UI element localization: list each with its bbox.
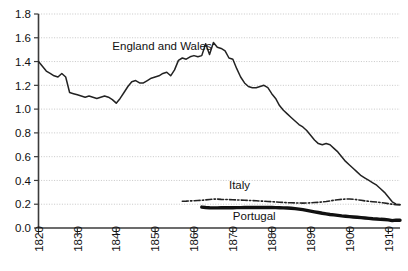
axes [39,14,401,228]
annotation-label-england-and-wales: England and Wales [112,40,212,52]
y-tick-label: 1.0 [15,103,31,115]
annotation-label-italy: Italy [229,179,250,191]
line-chart: 0.00.20.40.60.81.01.21.41.61.8 182018301… [0,0,408,271]
y-tick-label: 1.8 [15,8,31,20]
x-tick-label: 1820 [33,226,45,252]
x-tick-label: 1850 [149,226,161,252]
y-tick-label: 0.2 [15,198,31,210]
series-line-portugal [202,207,400,221]
y-tick-label: 1.2 [15,80,31,92]
x-tick-label: 1860 [188,226,200,252]
y-tick-label: 0.6 [15,151,31,163]
x-tick-label: 1900 [344,226,356,252]
x-tick-label: 1890 [305,226,317,252]
y-tick-label: 0.8 [15,127,31,139]
x-tick-label: 1910 [383,226,395,252]
annotation-label-portugal: Portugal [233,210,276,222]
series-annotations: England and WalesItalyPortugal [112,40,275,222]
series-lines [39,43,401,221]
y-tick-label: 1.6 [15,32,31,44]
y-axis-tick-labels: 0.00.20.40.60.81.01.21.41.61.8 [15,8,32,234]
x-tick-label: 1880 [266,226,278,252]
y-tick-label: 0.4 [15,175,32,187]
gridlines [39,14,401,204]
x-tick-label: 1830 [72,226,84,252]
y-tick-label: 0.0 [15,222,31,234]
x-tick-label: 1870 [227,226,239,252]
x-axis-tick-labels: 1820183018401850186018701880189019001910 [33,226,395,252]
y-tick-label: 1.4 [15,56,32,68]
chart-container: 0.00.20.40.60.81.01.21.41.61.8 182018301… [0,0,408,271]
x-tick-label: 1840 [110,226,122,252]
